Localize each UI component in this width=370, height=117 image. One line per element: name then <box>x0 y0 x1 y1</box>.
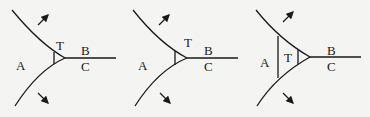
label-B: B <box>81 43 90 58</box>
diagram-canvas: T B A C T B A C T B A C <box>0 0 370 117</box>
label-B: B <box>327 43 336 58</box>
arrow-down-icon <box>160 93 170 103</box>
label-T: T <box>284 50 292 65</box>
panel-1: T B A C <box>12 10 116 106</box>
label-A: A <box>138 58 148 73</box>
label-T: T <box>184 35 192 50</box>
panel-2: T B A C <box>133 10 238 106</box>
label-C: C <box>204 59 213 74</box>
upper-boundary <box>256 10 310 57</box>
label-A: A <box>16 58 26 73</box>
panel-3: T B A C <box>256 10 361 106</box>
label-B: B <box>204 43 213 58</box>
label-A: A <box>260 55 270 70</box>
arrow-up-icon <box>283 12 293 22</box>
upper-boundary <box>133 10 187 58</box>
label-C: C <box>81 59 90 74</box>
label-C: C <box>327 59 336 74</box>
arrow-up-icon <box>38 15 48 25</box>
label-T: T <box>56 38 64 53</box>
arrow-up-icon <box>159 15 169 25</box>
arrow-down-icon <box>38 93 48 103</box>
arrow-down-icon <box>283 93 293 103</box>
